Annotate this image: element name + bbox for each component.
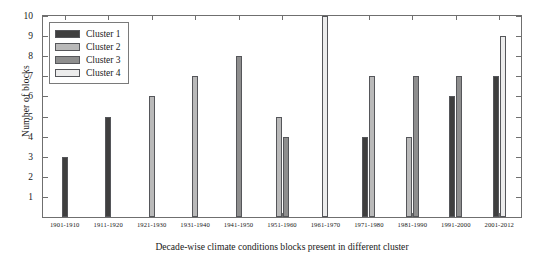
- legend-swatch-icon: [55, 69, 80, 77]
- legend-item: Cluster 2: [55, 40, 121, 53]
- x-axis-tick-label: 1941-1950: [224, 221, 253, 228]
- bar: [456, 76, 462, 217]
- y-axis-tick-label: 8: [1, 51, 33, 61]
- y-axis-tick: [516, 217, 521, 218]
- y-axis-tick-label: 6: [1, 91, 33, 101]
- x-axis-tick: [195, 16, 196, 20]
- x-axis-tick: [65, 16, 66, 20]
- x-axis-tick: [369, 16, 370, 20]
- y-axis-tick: [516, 36, 521, 37]
- y-axis-tick: [516, 197, 521, 198]
- bar: [413, 76, 419, 217]
- bar: [500, 36, 506, 217]
- y-axis-tick-label: 9: [1, 31, 33, 41]
- bar: [493, 76, 499, 217]
- bar: [236, 56, 242, 217]
- x-axis-tick: [108, 16, 109, 20]
- legend-item: Cluster 4: [55, 66, 121, 79]
- y-axis-tick: [43, 117, 48, 118]
- bar: [449, 96, 455, 217]
- y-axis-tick-label: 10: [1, 11, 33, 21]
- legend-item-label: Cluster 4: [86, 68, 121, 78]
- y-axis-tick: [43, 96, 48, 97]
- x-axis-tick-label: 1991-2000: [441, 221, 470, 228]
- y-axis-tick: [516, 56, 521, 57]
- bar: [105, 117, 111, 218]
- y-axis-tick: [516, 117, 521, 118]
- legend-swatch-icon: [55, 30, 80, 38]
- y-axis-tick: [516, 16, 521, 17]
- y-axis-tick: [43, 157, 48, 158]
- chart-legend: Cluster 1Cluster 2Cluster 3Cluster 4: [49, 22, 129, 84]
- x-axis-tick-label: 1921-1930: [137, 221, 166, 228]
- bar: [369, 76, 375, 217]
- x-axis-tick-label: 1931-1940: [180, 221, 209, 228]
- y-axis-tick: [43, 16, 48, 17]
- y-axis-tick: [516, 177, 521, 178]
- bar: [406, 137, 412, 217]
- y-axis-tick: [516, 137, 521, 138]
- x-axis-tick-label: 2001-2012: [485, 221, 514, 228]
- bar: [322, 16, 328, 217]
- x-axis-tick: [152, 16, 153, 20]
- x-axis-tick-labels: 1901-19101911-19201921-19301931-19401941…: [42, 221, 522, 235]
- y-axis-tick-labels: 12345678910: [0, 15, 38, 218]
- x-axis-tick: [412, 16, 413, 20]
- bar: [62, 157, 68, 217]
- bar: [192, 76, 198, 217]
- legend-item: Cluster 3: [55, 53, 121, 66]
- y-axis-tick-label: 7: [1, 71, 33, 81]
- y-axis-tick: [43, 197, 48, 198]
- y-axis-tick: [43, 137, 48, 138]
- legend-item: Cluster 1: [55, 27, 121, 40]
- y-axis-tick: [516, 157, 521, 158]
- x-axis-tick-label: 1901-1910: [50, 221, 79, 228]
- legend-item-label: Cluster 3: [86, 55, 121, 65]
- x-axis-tick: [499, 16, 500, 20]
- y-axis-tick: [43, 56, 48, 57]
- chart-figure: Number of blocks 12345678910 1901-191019…: [0, 0, 543, 266]
- y-axis-tick: [43, 217, 48, 218]
- y-axis-tick: [43, 76, 48, 77]
- legend-item-label: Cluster 1: [86, 29, 121, 39]
- y-axis-tick-label: 2: [1, 172, 33, 182]
- x-axis-tick-label: 1911-1920: [94, 221, 123, 228]
- x-axis-tick-label: 1961-1970: [311, 221, 340, 228]
- y-axis-tick: [516, 96, 521, 97]
- bar: [362, 137, 368, 217]
- y-axis-tick-label: 5: [1, 112, 33, 122]
- x-axis-tick: [239, 16, 240, 20]
- legend-swatch-icon: [55, 43, 80, 51]
- y-axis-tick-label: 4: [1, 132, 33, 142]
- legend-item-label: Cluster 2: [86, 42, 121, 52]
- bar: [283, 137, 289, 217]
- y-axis-tick-label: 1: [1, 192, 33, 202]
- x-axis-tick: [456, 16, 457, 20]
- bar: [276, 117, 282, 218]
- y-axis-tick-label: 3: [1, 152, 33, 162]
- y-axis-tick: [516, 76, 521, 77]
- x-axis-tick: [282, 16, 283, 20]
- x-axis-tick-label: 1971-1980: [354, 221, 383, 228]
- x-axis-tick-label: 1951-1960: [267, 221, 296, 228]
- y-axis-tick: [43, 177, 48, 178]
- legend-swatch-icon: [55, 56, 80, 64]
- x-axis-title: Decade-wise climate conditions blocks pr…: [42, 241, 522, 252]
- x-axis-tick-label: 1981-1990: [398, 221, 427, 228]
- y-axis-tick: [43, 36, 48, 37]
- bar: [149, 96, 155, 217]
